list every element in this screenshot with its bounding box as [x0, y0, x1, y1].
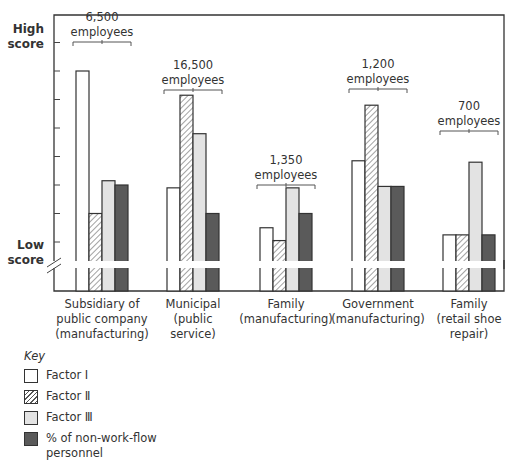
bar-2-group-1 — [89, 214, 102, 292]
bar-3-group-1 — [102, 181, 115, 291]
group-size-label: 1,200 employees — [333, 57, 423, 87]
bar-4-group-3 — [299, 214, 312, 292]
group-size-label: 16,500 employees — [148, 58, 238, 88]
legend-label: Factor Ⅲ — [46, 410, 93, 425]
group-size-label: 700 employees — [424, 99, 514, 129]
legend-title: Key — [24, 348, 157, 364]
group-size-label: 6,500 employees — [57, 10, 147, 40]
bar-1-group-1 — [76, 71, 89, 291]
bar-3-group-5 — [469, 162, 482, 291]
legend-label: % of non-work-flow personnel — [46, 431, 157, 461]
legend-item-non-work-flow: % of non-work-flow personnel — [24, 431, 157, 465]
group-size-label: 1,350 employees — [241, 153, 331, 183]
bar-chart — [0, 0, 518, 300]
category-label: Family (retail shoe repair) — [414, 297, 518, 342]
legend-item-factor-3: Factor Ⅲ — [24, 410, 157, 431]
non-work-flow-swatch-icon — [24, 432, 38, 446]
factor-1-swatch-icon — [24, 369, 38, 383]
y-axis-low-label: Low score — [0, 238, 44, 268]
legend-label: Factor Ⅰ — [46, 368, 88, 383]
legend: Key Factor Ⅰ Factor Ⅱ Factor Ⅲ % of non-… — [24, 348, 157, 465]
legend-item-factor-2: Factor Ⅱ — [24, 389, 157, 410]
bar-1-group-3 — [260, 228, 273, 291]
bar-1-group-4 — [352, 161, 365, 291]
legend-item-factor-1: Factor Ⅰ — [24, 368, 157, 389]
bar-1-group-2 — [167, 188, 180, 291]
bar-4-group-4 — [391, 186, 404, 291]
bar-3-group-4 — [378, 186, 391, 291]
y-axis-high-label: High score — [0, 22, 44, 52]
legend-label: Factor Ⅱ — [46, 389, 91, 404]
bar-3-group-3 — [286, 188, 299, 291]
factor-3-swatch-icon — [24, 411, 38, 425]
factor-2-hatched-swatch-icon — [24, 390, 38, 404]
bar-4-group-2 — [206, 214, 219, 292]
bar-4-group-1 — [115, 185, 128, 291]
